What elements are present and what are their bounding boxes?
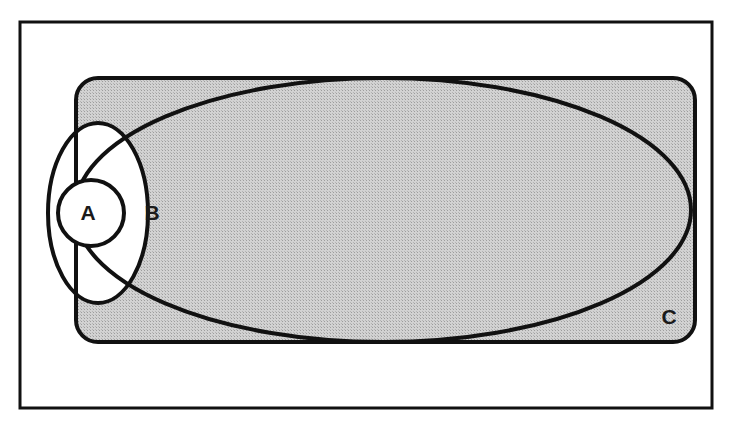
set-label-a: A [80, 201, 95, 224]
figure-root: A B C [0, 0, 731, 426]
euler-diagram-canvas: A B C [0, 0, 731, 426]
set-label-c: C [661, 305, 676, 328]
set-label-b: B [144, 201, 159, 224]
